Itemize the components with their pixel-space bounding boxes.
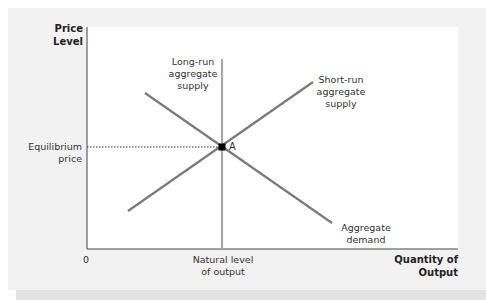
ad-label-line1: Aggregate	[336, 222, 396, 234]
sras-label-line3: supply	[314, 98, 368, 110]
lras-label: Long-run aggregate supply	[168, 56, 218, 92]
lras-label-line2: aggregate	[168, 68, 218, 80]
point-a-label: A	[229, 141, 236, 153]
equilibrium-price-label-line2: price	[10, 153, 82, 165]
equilibrium-point	[219, 144, 226, 151]
sras-label: Short-run aggregate supply	[314, 74, 368, 110]
natural-level-label-line2: of output	[190, 266, 256, 278]
ad-label: Aggregate demand	[336, 222, 396, 246]
sras-label-line1: Short-run	[314, 74, 368, 86]
y-axis-label-line1: Price	[40, 22, 83, 35]
ad-label-line2: demand	[336, 234, 396, 246]
x-axis-label: Quantity of Output	[384, 253, 458, 279]
x-axis-label-line1: Quantity of	[384, 253, 458, 266]
y-axis-label: Price Level	[40, 22, 83, 48]
y-axis-label-line2: Level	[40, 35, 83, 48]
lras-label-line1: Long-run	[168, 56, 218, 68]
natural-level-label-line1: Natural level	[190, 254, 256, 266]
natural-level-label: Natural level of output	[190, 254, 256, 278]
x-axis-label-line2: Output	[384, 266, 458, 279]
lras-label-line3: supply	[168, 80, 218, 92]
origin-label: 0	[83, 254, 89, 266]
aggregate-demand-curve	[145, 93, 332, 223]
sras-label-line2: aggregate	[314, 86, 368, 98]
equilibrium-price-label-line1: Equilibrium	[10, 141, 82, 153]
equilibrium-price-label: Equilibrium price	[10, 141, 82, 165]
